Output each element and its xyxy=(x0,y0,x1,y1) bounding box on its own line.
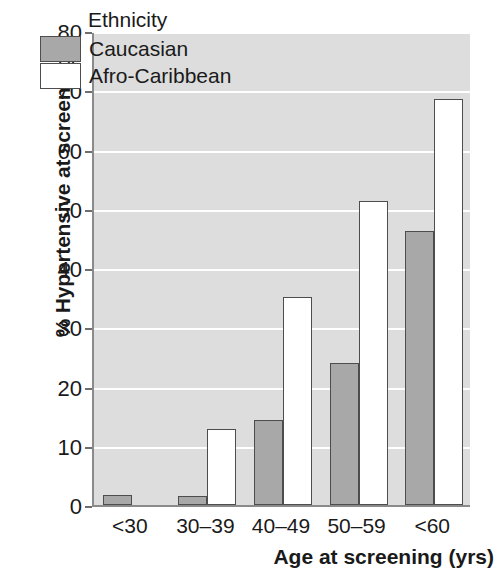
y-tick-mark xyxy=(85,447,92,449)
bar-afro-caribbean xyxy=(434,99,463,505)
bar-series-container xyxy=(94,33,470,505)
y-tick-label: 0 xyxy=(36,496,82,518)
x-tick-label: <60 xyxy=(387,514,477,538)
legend-item-afro-caribbean: Afro-Caribbean xyxy=(40,63,290,89)
bar-caucasian xyxy=(405,231,434,505)
bar-caucasian xyxy=(330,363,359,505)
y-tick-label: 20 xyxy=(36,378,82,400)
y-tick-mark xyxy=(85,328,92,330)
bar-caucasian xyxy=(178,496,207,505)
y-tick-mark xyxy=(85,210,92,212)
y-tick-label: 40 xyxy=(36,259,82,281)
y-tick-mark xyxy=(85,151,92,153)
y-tick-mark xyxy=(85,269,92,271)
bar-group xyxy=(321,33,397,505)
bar-afro-caribbean xyxy=(359,201,388,505)
bar-group xyxy=(245,33,321,505)
y-tick-mark xyxy=(85,91,92,93)
x-axis-title: Age at screening (yrs) xyxy=(273,545,494,569)
bar-group xyxy=(94,33,170,505)
bar-caucasian xyxy=(103,495,132,505)
legend-swatch-afro-caribbean xyxy=(40,63,81,89)
bar-chart-figure: % Hypertensive at screening 010203040506… xyxy=(0,0,502,574)
bar-group xyxy=(396,33,472,505)
y-tick-mark xyxy=(85,506,92,508)
bar-afro-caribbean xyxy=(283,297,312,505)
bar-group xyxy=(170,33,246,505)
y-tick-label: 30 xyxy=(36,318,82,340)
legend-title: Ethnicity xyxy=(88,8,290,32)
legend-label-afro-caribbean: Afro-Caribbean xyxy=(89,64,231,87)
legend-item-caucasian: Caucasian xyxy=(40,36,290,62)
y-tick-label: 50 xyxy=(36,200,82,222)
legend: Ethnicity Caucasian Afro-Caribbean xyxy=(40,8,290,90)
plot-area xyxy=(92,33,470,507)
y-tick-label: 10 xyxy=(36,437,82,459)
bar-caucasian xyxy=(254,420,283,505)
bar-afro-caribbean xyxy=(207,429,236,505)
y-tick-mark xyxy=(85,388,92,390)
legend-label-caucasian: Caucasian xyxy=(89,37,188,60)
y-tick-label: 60 xyxy=(36,141,82,163)
legend-swatch-caucasian xyxy=(40,36,81,62)
